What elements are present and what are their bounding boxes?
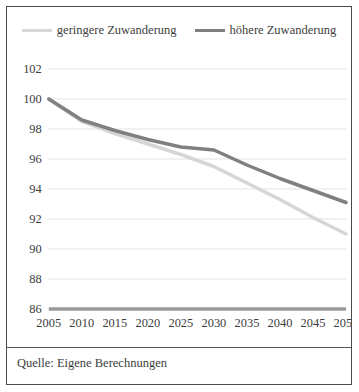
x-tick-label: 2005 xyxy=(36,316,61,330)
y-tick-label: 96 xyxy=(29,152,41,166)
y-tick-label: 100 xyxy=(23,92,42,106)
data-series-lines xyxy=(49,99,346,234)
series-line-hoehere xyxy=(49,99,346,203)
legend-line-swatch-geringere xyxy=(22,29,52,32)
y-tick-label: 102 xyxy=(23,62,42,76)
x-tick-label: 2025 xyxy=(168,316,193,330)
plot-area: 86889092949698100102 2005201020152020202… xyxy=(7,47,351,343)
y-tick-label: 90 xyxy=(29,242,41,256)
legend-entry-geringere-zuwanderung[interactable]: geringere Zuwanderung xyxy=(22,24,177,37)
x-tick-label: 2030 xyxy=(201,316,226,330)
series-line-geringere xyxy=(49,99,346,234)
legend-line-swatch-hoehere xyxy=(195,29,225,32)
line-chart-svg: 86889092949698100102 2005201020152020202… xyxy=(7,47,351,343)
x-tick-label: 2045 xyxy=(301,316,326,330)
y-tick-label: 98 xyxy=(29,122,41,136)
legend-label-geringere: geringere Zuwanderung xyxy=(57,24,177,37)
y-axis-tick-labels: 86889092949698100102 xyxy=(23,62,42,316)
source-note: Quelle: Eigene Berechnungen xyxy=(17,356,167,371)
source-divider xyxy=(7,347,351,348)
legend-entry-hoehere-zuwanderung[interactable]: höhere Zuwanderung xyxy=(195,24,337,37)
x-tick-label: 2010 xyxy=(69,316,94,330)
chart-legend: geringere Zuwanderung höhere Zuwanderung xyxy=(7,19,351,41)
y-tick-label: 86 xyxy=(29,302,41,316)
y-tick-label: 94 xyxy=(29,182,42,196)
y-tick-label: 92 xyxy=(29,212,41,226)
x-tick-label: 2020 xyxy=(135,316,160,330)
figure-container: geringere Zuwanderung höhere Zuwanderung… xyxy=(6,6,352,385)
y-gridlines xyxy=(49,69,346,309)
y-tick-label: 88 xyxy=(29,272,41,286)
legend-label-hoehere: höhere Zuwanderung xyxy=(230,24,337,37)
x-tick-label: 2035 xyxy=(235,316,260,330)
x-tick-label: 2015 xyxy=(102,316,127,330)
x-axis-tick-labels: 2005201020152020202520302035204020452050 xyxy=(36,316,351,330)
x-tick-label: 2040 xyxy=(268,316,293,330)
x-tick-label: 2050 xyxy=(334,316,351,330)
